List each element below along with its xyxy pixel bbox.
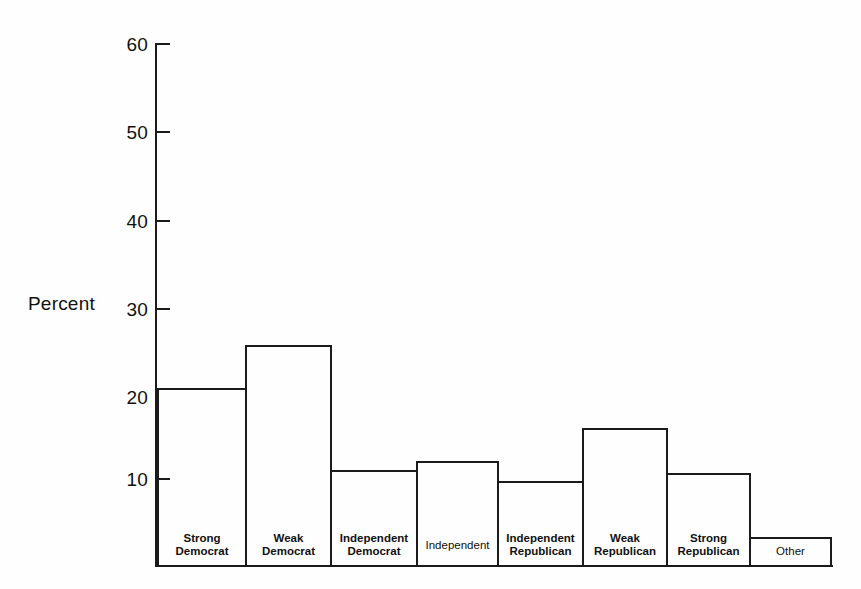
bar-label-line2: Democrat [262, 545, 315, 557]
bar-label-independent: Independent [416, 539, 499, 552]
bar-label-line1: Independent [426, 539, 490, 551]
bar-label-line1: Strong [690, 532, 727, 544]
bar-label-independent-republican: IndependentRepublican [497, 532, 584, 557]
y-axis-title: Percent [28, 293, 95, 315]
x-axis-baseline [155, 565, 833, 567]
bar-chart: Percent 60 50 40 30 20 10 StrongDemocrat… [0, 0, 861, 589]
bar-label-line1: Weak [610, 532, 640, 544]
y-tick-label-60: 60 [110, 34, 148, 56]
y-tick-mark-40 [157, 220, 170, 222]
bar-label-line2: Democrat [347, 545, 400, 557]
bar-label-line1: Weak [274, 532, 304, 544]
y-tick-label-20: 20 [110, 387, 148, 409]
bar-label-strong-republican: StrongRepublican [666, 532, 751, 557]
y-tick-mark-30 [157, 308, 170, 310]
bar-label-line2: Republican [594, 545, 656, 557]
bar-label-line2: Democrat [175, 545, 228, 557]
y-tick-label-40: 40 [110, 211, 148, 233]
bar-label-strong-democrat: StrongDemocrat [157, 532, 247, 557]
y-tick-label-50: 50 [110, 122, 148, 144]
y-tick-label-30: 30 [110, 299, 148, 321]
bar-label-weak-republican: WeakRepublican [582, 532, 668, 557]
bar-label-other: Other [749, 545, 832, 558]
y-tick-mark-60 [157, 43, 170, 45]
bar-label-independent-democrat: IndependentDemocrat [330, 532, 418, 557]
bar-label-weak-democrat: WeakDemocrat [245, 532, 332, 557]
y-tick-mark-50 [157, 131, 170, 133]
bar-label-line1: Other [776, 545, 805, 557]
bar-label-line2: Republican [510, 545, 572, 557]
bar-label-line1: Independent [506, 532, 574, 544]
bar-label-line1: Independent [340, 532, 408, 544]
bar-label-line2: Republican [678, 545, 740, 557]
y-tick-label-10: 10 [110, 469, 148, 491]
bar-label-line1: Strong [183, 532, 220, 544]
